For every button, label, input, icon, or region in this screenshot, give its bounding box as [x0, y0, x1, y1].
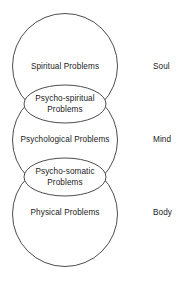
venn-diagram-graphic: [0, 0, 196, 290]
side-label-body: Body: [153, 208, 172, 217]
side-label-soul: Soul: [153, 62, 170, 71]
lens-psycho-spiritual: [24, 85, 106, 123]
lens-psycho-somatic: [24, 158, 106, 196]
side-label-mind: Mind: [153, 135, 171, 144]
diagram-canvas: Spiritual Problems Psycho-spiritual Prob…: [0, 0, 196, 290]
